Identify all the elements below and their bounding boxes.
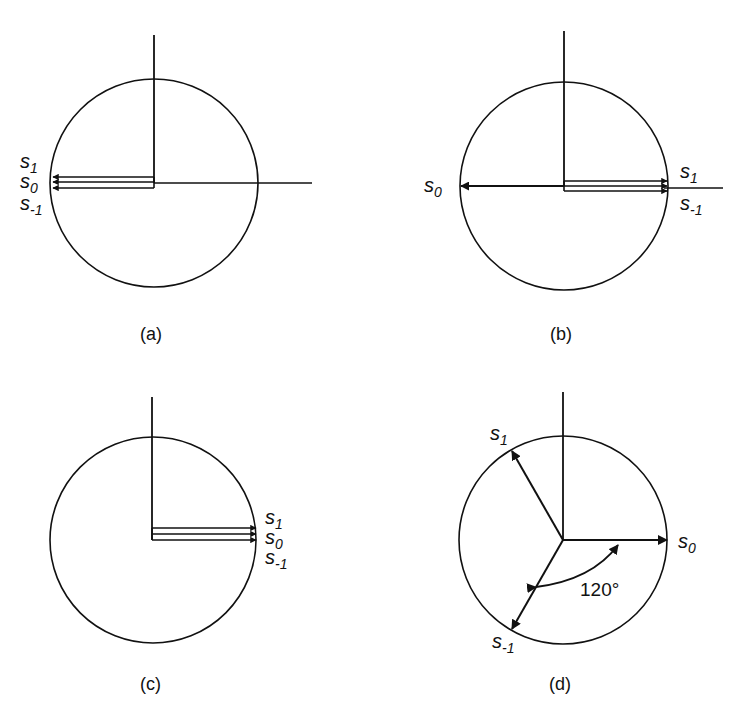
panel-d: s1 s0 s-1 120° (d): [459, 392, 696, 694]
vector-bundle-left: [53, 177, 154, 188]
label-s0: s0: [678, 530, 696, 556]
panel-a: s1 s0 s-1 (a): [20, 35, 312, 344]
vector-s1: [512, 451, 563, 540]
label-s-1: s-1: [680, 192, 702, 218]
caption-a: (a): [140, 324, 162, 344]
vector-bundle-right: [564, 181, 667, 191]
label-s-1: s-1: [492, 630, 514, 656]
angle-label: 120°: [580, 579, 619, 600]
phasor-diagram-figure: s1 s0 s-1 (a) s0 s1 s-1 (b) s1 s0: [0, 0, 750, 723]
caption-b: (b): [550, 324, 572, 344]
panel-c: s1 s0 s-1 (c): [50, 397, 287, 694]
label-s1: s1: [490, 422, 508, 448]
panel-b: s0 s1 s-1 (b): [424, 31, 723, 344]
caption-d: (d): [549, 674, 571, 694]
label-s0: s0: [424, 174, 442, 200]
caption-c: (c): [140, 674, 161, 694]
label-s1: s1: [680, 160, 698, 186]
vector-bundle-right: [152, 528, 256, 540]
